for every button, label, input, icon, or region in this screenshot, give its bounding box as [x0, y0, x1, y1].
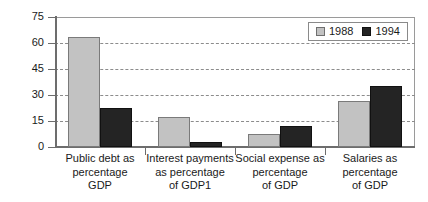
category-label-2: Interest paymentsas percentageof GDP1: [145, 152, 235, 193]
category-label-4-line-3: of GDP: [325, 179, 415, 193]
y-tick-label-0: 0: [0, 141, 44, 152]
category-label-1: Public debt aspercentageGDP: [55, 152, 145, 193]
legend-item-1994: 1994: [362, 26, 399, 37]
legend-item-1988: 1988: [316, 26, 353, 37]
bar-1988-group-2: [158, 117, 190, 147]
bar-1994-group-2: [190, 142, 222, 147]
bar-1994-group-4: [370, 86, 402, 147]
category-label-3: Social expense aspercentageof GDP: [235, 152, 325, 193]
legend-label-1988: 1988: [329, 26, 353, 37]
bar-group-3: [248, 17, 312, 147]
y-tick-label-45: 45: [0, 63, 44, 74]
category-labels: Public debt aspercentageGDPInterest paym…: [55, 152, 415, 202]
category-label-1-line-2: percentage: [55, 166, 145, 180]
y-tick-label-30: 30: [0, 89, 44, 100]
category-label-2-line-2: as percentage: [145, 166, 235, 180]
y-tick-label-15: 15: [0, 115, 44, 126]
bar-1988-group-1: [68, 37, 100, 147]
legend-label-1994: 1994: [375, 26, 399, 37]
category-label-4-line-2: percentage: [325, 166, 415, 180]
bar-1988-group-3: [248, 134, 280, 147]
bar-1988-group-4: [338, 101, 370, 147]
y-tick-label-60: 60: [0, 37, 44, 48]
y-tick-label-75: 75: [0, 11, 44, 22]
category-label-3-line-3: of GDP: [235, 179, 325, 193]
chart-legend: 1988 1994: [308, 22, 408, 41]
bar-group-1: [68, 17, 132, 147]
category-label-1-line-3: GDP: [55, 179, 145, 193]
category-label-4-line-1: Salaries as: [325, 152, 415, 166]
category-label-2-line-3: of GDP1: [145, 179, 235, 193]
category-label-1-line-1: Public debt as: [55, 152, 145, 166]
bar-chart: 01530456075 Public debt aspercentageGDPI…: [0, 0, 428, 202]
bar-group-2: [158, 17, 222, 147]
legend-swatch-1988-icon: [316, 27, 325, 36]
category-label-3-line-1: Social expense as: [235, 152, 325, 166]
bar-1994-group-3: [280, 126, 312, 147]
category-label-4: Salaries aspercentageof GDP: [325, 152, 415, 193]
bar-1994-group-1: [100, 108, 132, 147]
category-label-2-line-1: Interest payments: [145, 152, 235, 166]
legend-swatch-1994-icon: [362, 27, 371, 36]
category-label-3-line-2: percentage: [235, 166, 325, 180]
